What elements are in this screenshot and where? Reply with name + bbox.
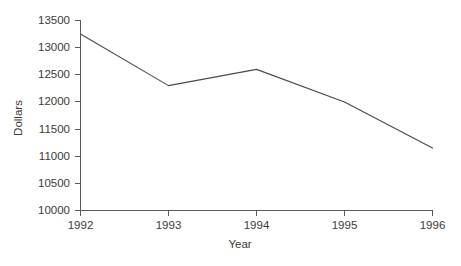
y-axis-tick-labels: 10000 10500 11000 11500 12000 12500 1300… [38,14,70,216]
x-tick-label-1994: 1994 [244,219,270,231]
x-tick-label-1992: 1992 [68,219,94,231]
x-tick-label-1995: 1995 [332,219,358,231]
x-axis-title: Year [228,238,251,250]
x-axis-tick-labels: 1992 1993 1994 1995 1996 [68,219,446,231]
y-tick-label-12500: 12500 [38,68,70,80]
data-series-line [81,34,433,148]
y-axis-title: Dollars [12,100,24,136]
chart-canvas: 10000 10500 11000 11500 12000 12500 1300… [0,0,461,266]
y-tick-label-11000: 11000 [39,150,70,162]
x-axis-ticks [81,211,433,217]
y-axis-ticks [75,21,81,211]
y-tick-label-13000: 13000 [38,41,70,53]
y-tick-label-13500: 13500 [38,14,70,26]
y-tick-label-11500: 11500 [39,123,70,135]
line-chart: 10000 10500 11000 11500 12000 12500 1300… [0,0,461,266]
y-tick-label-10500: 10500 [38,177,70,189]
y-tick-label-12000: 12000 [38,95,70,107]
x-tick-label-1996: 1996 [420,219,446,231]
y-tick-label-10000: 10000 [38,204,70,216]
x-tick-label-1993: 1993 [156,219,182,231]
